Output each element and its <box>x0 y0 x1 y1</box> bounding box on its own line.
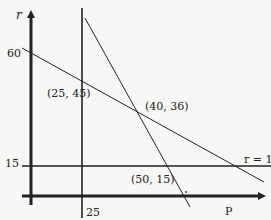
line-label-r15: r = 15 <box>244 153 271 166</box>
crossing-dot <box>185 191 187 193</box>
tick-label-25: 25 <box>86 206 100 219</box>
shallow-demand-line <box>22 48 264 182</box>
point-label-50-15: (50, 15) <box>131 173 175 186</box>
tick-label-60: 60 <box>7 47 21 60</box>
y-axis-label: r <box>16 8 23 22</box>
tick-label-15: 15 <box>5 157 19 170</box>
x-axis-label: P <box>225 205 233 218</box>
point-label-25-45: (25, 45) <box>47 87 91 100</box>
point-label-40-36: (40, 36) <box>145 100 189 113</box>
diagram-canvas: r P 60 15 25 r = 15 (25, 45) (40, 36) (5… <box>0 0 271 220</box>
